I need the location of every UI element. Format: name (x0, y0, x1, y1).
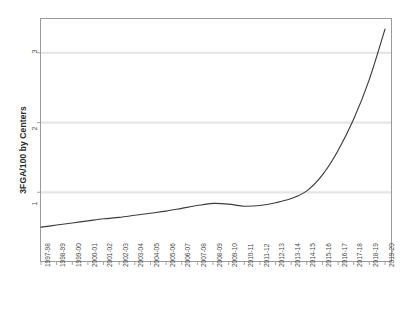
x-tick-label-2014-15: 2014-15 (309, 243, 316, 267)
x-tick-label-2004-05: 2004-05 (153, 243, 160, 267)
x-tick-label-2012-13: 2012-13 (278, 243, 285, 267)
x-tick-label-2015-16: 2015-16 (325, 243, 332, 267)
x-tick-label-2008-09: 2008-09 (216, 243, 223, 267)
chart-container: 3FGA/100 by Centers 3 2 1 1997-981998-99… (0, 0, 415, 313)
x-tick-label-2016-17: 2016-17 (341, 243, 348, 267)
x-tick-label-2017-18: 2017-18 (356, 243, 363, 267)
x-tick-label-1998-99: 1998-99 (59, 243, 66, 267)
x-tick-label-2002-03: 2002-03 (122, 243, 129, 267)
x-tick-label-1999-00: 1999-00 (75, 243, 82, 267)
x-tick-label-2006-07: 2006-07 (184, 243, 191, 267)
x-tick-label-2009-10: 2009-10 (231, 243, 238, 267)
x-tick-label-2010-11: 2010-11 (247, 244, 254, 267)
x-tick-label-2013-14: 2013-14 (294, 243, 301, 267)
x-tick-label-2019-20: 2019-20 (388, 243, 395, 267)
x-tick-label-1997-98: 1997-98 (44, 243, 51, 267)
x-tick-label-2001-02: 2001-02 (106, 243, 113, 267)
x-tick-label-2005-06: 2005-06 (169, 243, 176, 267)
x-tick-label-2000-01: 2000-01 (91, 243, 98, 267)
x-tick-label-2011-12: 2011-12 (263, 244, 270, 267)
plot-frame (41, 19, 392, 262)
x-tick-label-2018-19: 2018-19 (372, 243, 379, 267)
x-tick-label-2003-04: 2003-04 (137, 243, 144, 267)
x-tick-label-2007-08: 2007-08 (200, 243, 207, 267)
